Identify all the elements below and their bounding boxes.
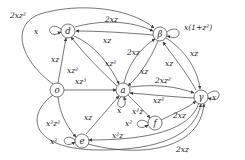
label-f-loop: x² [125,119,132,128]
label-a-beta: 2xz [126,48,140,57]
edge-gamma-e [89,103,199,140]
node-label-a: a [120,85,125,95]
edge-o-beta [22,8,154,84]
edge-o-d [58,38,66,83]
label-gamma-a: xz² [153,96,164,105]
label-e-gamma: 2xz [175,145,189,154]
node-gamma: γ [194,90,208,104]
edge-o-e [58,97,76,137]
state-diagram: d β o a γ f e 2xz² 2xz xz x [0,0,245,160]
label-a-gamma: 2xz² [154,76,171,85]
label-gamma-loop: x [212,93,217,102]
edge-e-gamma [88,104,204,150]
loop-e [64,137,75,144]
label-f-gamma: 2xz [172,111,186,120]
label-d-beta: 2xz [104,15,118,24]
loop-f [137,120,148,127]
label-beta-d: xz [103,36,111,45]
node-label-e: e [79,136,84,146]
label-a-d: xz² [67,66,78,75]
edge-a-beta [124,39,155,83]
nodes: d β o a γ f e [50,24,208,148]
node-beta: β [153,27,167,41]
label-d-loop: x [34,27,39,36]
label-d-a: xz² [105,59,116,68]
loop-d [50,26,61,34]
node-e: e [75,134,89,148]
node-label-beta: β [157,29,163,39]
label-beta-a: xz [140,67,148,76]
label-o-d: xz [51,55,59,64]
label-o-a: xz³ [75,77,86,86]
label-beta-gamma: xz [190,49,198,58]
node-o: o [50,83,64,97]
label-a-f: x²z [132,107,143,116]
label-gamma-e: x²z [112,131,123,140]
node-a: a [116,83,130,97]
edge-a-gamma [130,86,194,93]
label-o-beta: 2xz² [9,11,26,20]
label-e-a: xz [84,113,92,122]
label-o-e: x²z² [46,119,60,128]
node-d: d [61,24,75,38]
node-f: f [148,116,162,130]
node-label-o: o [54,85,59,95]
label-e-loop: x² [50,137,57,146]
edge-beta-d [76,31,153,35]
node-label-d: d [65,26,71,36]
loop-beta [167,29,179,38]
label-beta-loop: x(1+z²) [184,23,212,32]
label-gamma-beta: xz [165,59,173,68]
